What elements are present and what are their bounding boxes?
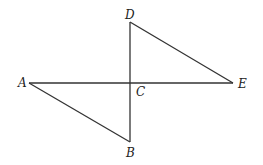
figure-svg: A B C D E bbox=[0, 0, 263, 165]
segment-de bbox=[130, 22, 233, 83]
label-b: B bbox=[125, 146, 135, 160]
label-d: D bbox=[124, 8, 135, 22]
label-c: C bbox=[136, 85, 145, 99]
geometry-figure: A B C D E bbox=[0, 0, 263, 165]
label-a: A bbox=[17, 76, 27, 90]
label-e: E bbox=[237, 77, 247, 91]
segment-ab bbox=[29, 83, 130, 142]
